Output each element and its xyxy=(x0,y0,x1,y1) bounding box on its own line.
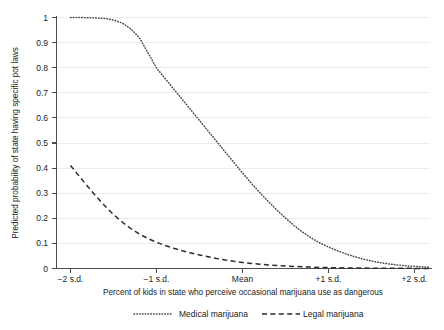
legend-label-medical-marijuana: Medical marijuana xyxy=(179,309,248,319)
y-axis-title: Predicted probability of state having sp… xyxy=(11,47,20,239)
x-tick-label-+2sd: +2 s.d. xyxy=(402,274,428,284)
x-tick-label-+1sd: +1 s.d. xyxy=(316,274,342,284)
y-tick-label-0.7: 0.7 xyxy=(36,88,48,98)
y-axis: 0 0.1 0.2 0.3 0.4 0.5 0.6 0.7 0.8 0.9 1 xyxy=(36,13,56,274)
series-line-legal-marijuana xyxy=(71,166,431,269)
x-tick-label--2sd: −2 s.d. xyxy=(58,274,84,284)
chart-figure: 0 0.1 0.2 0.3 0.4 0.5 0.6 0.7 0.8 0.9 1 … xyxy=(0,0,444,330)
x-tick-label-mean: Mean xyxy=(232,274,254,284)
legend: Medical marijuana Legal marijuana xyxy=(134,309,364,319)
y-tick-label-0: 0 xyxy=(43,264,48,274)
legend-label-legal-marijuana: Legal marijuana xyxy=(303,309,364,319)
y-tick-label-0.1: 0.1 xyxy=(36,238,48,248)
y-tick-label-0.6: 0.6 xyxy=(36,113,48,123)
x-axis: −2 s.d. −1 s.d. Mean +1 s.d. +2 s.d. xyxy=(56,269,432,285)
y-tick-label-0.9: 0.9 xyxy=(36,38,48,48)
y-tick-label-1: 1 xyxy=(43,13,48,23)
y-tick-label-0.2: 0.2 xyxy=(36,213,48,223)
gridlines xyxy=(56,18,430,244)
y-tick-label-0.4: 0.4 xyxy=(36,163,48,173)
y-tick-label-0.5: 0.5 xyxy=(36,138,48,148)
y-tick-label-0.3: 0.3 xyxy=(36,188,48,198)
x-tick-label--1sd: −1 s.d. xyxy=(144,274,170,284)
series-line-medical-marijuana xyxy=(71,18,431,268)
chart-canvas: 0 0.1 0.2 0.3 0.4 0.5 0.6 0.7 0.8 0.9 1 … xyxy=(0,0,444,330)
y-tick-label-0.8: 0.8 xyxy=(36,63,48,73)
x-axis-title: Percent of kids in state who perceive oc… xyxy=(103,288,383,297)
